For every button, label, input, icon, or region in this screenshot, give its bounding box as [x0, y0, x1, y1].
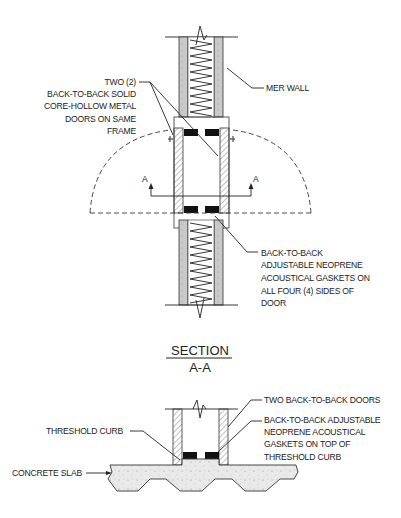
- door-left-section: [173, 409, 182, 465]
- gasket-top-right: [205, 129, 219, 136]
- label-threshold-gaskets: BACK-TO-BACK ADJUSTABLE NEOPRENE ACOUSTI…: [218, 415, 381, 462]
- svg-text:BACK-TO-BACK: BACK-TO-BACK: [261, 248, 323, 258]
- door-frame: [168, 117, 235, 228]
- hinge-left-icon: [168, 136, 173, 142]
- svg-text:BACK-TO-BACK SOLID: BACK-TO-BACK SOLID: [47, 89, 136, 99]
- svg-text:GASKETS ON TOP OF: GASKETS ON TOP OF: [264, 439, 350, 449]
- door-section-diagram: A A TWO (2) BACK-TO-BACK SOLID CORE-HOLL…: [0, 0, 401, 518]
- svg-text:CORE-HOLLOW METAL: CORE-HOLLOW METAL: [44, 101, 136, 111]
- svg-text:THRESHOLD CURB: THRESHOLD CURB: [264, 452, 341, 462]
- door-right-section: [219, 409, 228, 465]
- section-cut-line: A A: [142, 174, 259, 196]
- svg-text:FRAME: FRAME: [107, 126, 137, 136]
- threshold-gasket-left: [183, 452, 197, 459]
- threshold-gasket-right: [205, 452, 219, 459]
- label-mer-wall: MER WALL: [227, 68, 309, 93]
- label-concrete-slab: CONCRETE SLAB: [12, 468, 112, 478]
- section-title-block: SECTION A-A: [166, 343, 232, 375]
- door-right: [220, 128, 229, 213]
- svg-text:NEOPRENE ACOUSTICAL: NEOPRENE ACOUSTICAL: [264, 427, 366, 437]
- svg-text:ACOUSTICAL GASKETS ON: ACOUSTICAL GASKETS ON: [261, 273, 370, 283]
- svg-text:MER WALL: MER WALL: [266, 83, 309, 93]
- mer-wall-upper: [165, 26, 238, 117]
- door-left: [174, 128, 183, 213]
- section-marker-left: A: [142, 174, 148, 184]
- svg-text:DOOR: DOOR: [261, 298, 286, 308]
- section-subtitle: A-A: [189, 360, 211, 375]
- hinge-right-icon: [230, 136, 235, 142]
- concrete-slab: [108, 459, 298, 491]
- svg-text:CONCRETE SLAB: CONCRETE SLAB: [12, 468, 82, 478]
- svg-text:TWO (2): TWO (2): [104, 77, 136, 87]
- svg-text:THRESHOLD CURB: THRESHOLD CURB: [46, 426, 123, 436]
- section-title: SECTION: [171, 343, 229, 358]
- svg-text:TWO BACK-TO-BACK DOORS: TWO BACK-TO-BACK DOORS: [264, 395, 381, 405]
- svg-text:BACK-TO-BACK ADJUSTABLE: BACK-TO-BACK ADJUSTABLE: [264, 415, 381, 425]
- section-marker-right: A: [253, 174, 259, 184]
- label-gaskets: BACK-TO-BACK ADJUSTABLE NEOPRENE ACOUSTI…: [215, 216, 370, 308]
- mer-wall-lower: [165, 220, 238, 318]
- svg-text:ADJUSTABLE NEOPRENE: ADJUSTABLE NEOPRENE: [261, 260, 363, 270]
- svg-text:ALL FOUR (4) SIDES OF: ALL FOUR (4) SIDES OF: [261, 286, 354, 296]
- gasket-bottom-left: [184, 206, 198, 213]
- svg-text:DOORS ON SAME: DOORS ON SAME: [65, 114, 136, 124]
- door-swing-arc: [90, 130, 311, 213]
- label-threshold-curb: THRESHOLD CURB: [46, 426, 180, 460]
- gasket-bottom-right: [205, 206, 219, 213]
